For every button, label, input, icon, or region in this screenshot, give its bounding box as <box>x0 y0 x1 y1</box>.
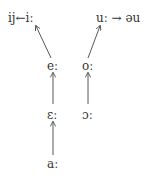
node-ij-from-i: ij←iː <box>8 12 34 24</box>
node-e-long: eː <box>47 60 58 72</box>
node-u-to-au: uː → əu <box>96 12 140 24</box>
node-a-long: aː <box>47 158 58 170</box>
node-open-e-long: ɛː <box>47 109 57 121</box>
arrow-e-to-i <box>36 26 51 58</box>
node-o-long: oː <box>82 60 93 72</box>
node-open-o-long: ɔː <box>82 109 93 121</box>
arrows-layer <box>0 0 149 179</box>
arrow-o-to-u <box>88 26 100 58</box>
